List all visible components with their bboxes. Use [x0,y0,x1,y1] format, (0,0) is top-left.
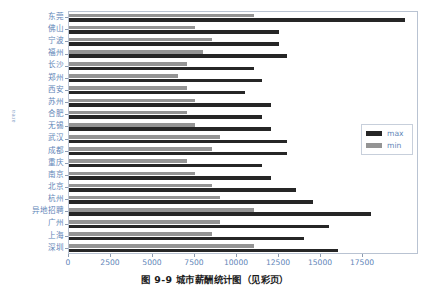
x-axis-tick [194,254,195,257]
bar-row [69,194,417,206]
bar-row [69,61,417,73]
bar-min [69,232,212,236]
x-axis-tick [236,254,237,257]
bar-max [69,30,279,34]
y-axis-label-7: 苏州 [48,98,64,106]
bar-min [69,208,254,212]
bar-max [69,140,287,144]
bar-max [69,42,279,46]
bar-min [69,50,203,54]
bar-max [69,103,271,107]
y-axis-label-2: 宁波 [48,37,64,45]
x-axis-tick [320,254,321,257]
bar-min [69,99,195,103]
bar-max [69,79,262,83]
bar-row [69,182,417,194]
y-axis-label-6: 西安 [48,86,64,94]
chart-legend: max min [361,124,413,155]
bar-max [69,249,338,253]
x-axis-label-2: 5000 [142,259,161,267]
bar-row [69,231,417,243]
y-axis-label-13: 南京 [48,171,64,179]
bar-min [69,147,212,151]
bar-max [69,237,304,241]
bar-max [69,164,262,168]
y-axis-label-19: 深圳 [48,244,64,252]
y-axis-label-8: 合肥 [48,110,64,118]
bar-max [69,225,329,229]
bar-max [69,54,287,58]
bar-max [69,188,296,192]
bar-min [69,74,178,78]
bar-min [69,111,187,115]
x-axis-label-4: 10000 [224,259,248,267]
bar-max [69,91,245,95]
y-axis-label-17: 广州 [48,219,64,227]
bar-max [69,115,262,119]
legend-swatch-max-icon [366,131,382,136]
bar-min [69,62,187,66]
bar-max [69,18,405,22]
x-axis-tick [362,254,363,257]
figure-container: area 东莞佛山宁波福州长沙郑州西安苏州合肥无锡武汉成都重庆南京北京杭州异地招… [0,0,430,289]
figure-caption: 图 9-9 城市薪酬统计图（见彩页） [0,272,430,286]
legend-item-min: min [366,141,408,150]
bar-min [69,135,220,139]
bar-max [69,127,271,131]
x-axis: 025005000750010000125001500017500 [68,254,418,274]
bar-min [69,38,212,42]
x-axis-tick [278,254,279,257]
y-axis-label-4: 长沙 [48,61,64,69]
y-axis-label-15: 杭州 [48,195,64,203]
legend-label-max: max [387,130,404,138]
bar-min [69,184,212,188]
bar-max [69,176,271,180]
x-axis-tick [110,254,111,257]
legend-label-min: min [387,142,401,150]
y-axis-label-1: 佛山 [48,25,64,33]
y-axis-tick-labels: 东莞佛山宁波福州长沙郑州西安苏州合肥无锡武汉成都重庆南京北京杭州异地招聘广州上海… [0,11,68,254]
x-axis-tick [68,254,69,257]
legend-item-max: max [366,129,408,138]
bar-row [69,73,417,85]
y-axis-label-9: 无锡 [48,122,64,130]
bar-max [69,200,313,204]
x-axis-label-6: 15000 [308,259,332,267]
bar-max [69,212,371,216]
y-axis-label-5: 郑州 [48,74,64,82]
bar-max [69,152,287,156]
bar-max [69,67,254,71]
y-axis-label-12: 重庆 [48,159,64,167]
bar-min [69,220,220,224]
bar-min [69,196,220,200]
legend-swatch-min-icon [366,143,382,148]
bar-row [69,158,417,170]
y-axis-label-3: 福州 [48,49,64,57]
y-axis-label-0: 东莞 [48,13,64,21]
bar-min [69,14,254,18]
bar-row [69,12,417,24]
x-axis-label-7: 17500 [350,259,374,267]
bar-row [69,97,417,109]
bar-row [69,48,417,60]
bar-min [69,26,195,30]
y-axis-label-18: 上海 [48,232,64,240]
bar-min [69,123,195,127]
y-axis-label-11: 成都 [48,147,64,155]
y-axis-label-16: 异地招聘 [32,207,64,215]
y-axis-label-14: 北京 [48,183,64,191]
bar-row [69,109,417,121]
x-axis-label-5: 12500 [266,259,290,267]
bar-min [69,86,187,90]
bar-min [69,244,254,248]
bar-row [69,85,417,97]
bar-row [69,24,417,36]
x-axis-label-0: 0 [66,259,71,267]
x-axis-label-3: 7500 [184,259,203,267]
bar-min [69,172,195,176]
bar-row [69,170,417,182]
x-axis-tick [152,254,153,257]
bar-row [69,36,417,48]
bar-row [69,219,417,231]
bar-min [69,159,187,163]
